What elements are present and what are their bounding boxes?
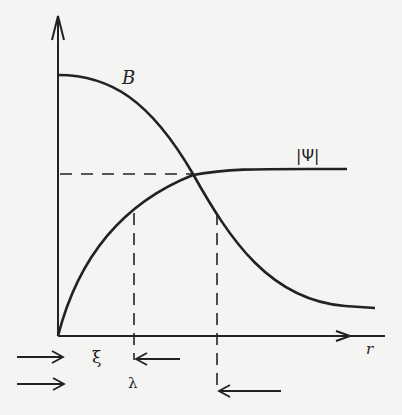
- lambda-right-arrow: [219, 385, 281, 397]
- y-axis: [52, 16, 64, 336]
- b-curve-label: B: [122, 69, 135, 87]
- lambda-left-arrow: [17, 378, 64, 390]
- diagram-svg: [0, 0, 402, 415]
- diagram-canvas: B |Ψ| r ξ λ: [0, 0, 402, 415]
- lambda-label: λ: [128, 376, 138, 391]
- r-axis-label: r: [366, 342, 373, 357]
- xi-left-arrow: [17, 351, 63, 363]
- psi-curve: [58, 169, 347, 336]
- xi-right-arrow: [136, 353, 180, 365]
- xi-label: ξ: [92, 349, 101, 366]
- psi-curve-label: |Ψ|: [296, 148, 319, 164]
- x-axis: [58, 331, 385, 341]
